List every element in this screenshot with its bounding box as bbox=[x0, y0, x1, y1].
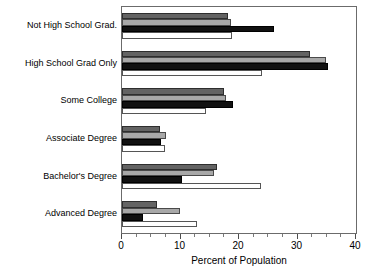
x-tick-minor bbox=[311, 234, 312, 237]
bar-row bbox=[122, 108, 356, 114]
y-axis-label: Bachelor's Degree bbox=[1, 171, 117, 181]
x-tick-minor bbox=[282, 234, 283, 237]
bar-group bbox=[122, 158, 356, 196]
bar[interactable] bbox=[122, 145, 165, 151]
bar[interactable] bbox=[122, 108, 206, 114]
x-tick-minor bbox=[136, 234, 137, 237]
x-tick-minor bbox=[253, 234, 254, 237]
bar-chart: Not High School Grad.High School Grad On… bbox=[0, 0, 371, 271]
bar-group bbox=[122, 45, 356, 83]
x-tick-minor bbox=[340, 234, 341, 237]
x-tick-major bbox=[238, 234, 239, 239]
x-tick-minor bbox=[223, 234, 224, 237]
x-tick-minor bbox=[209, 234, 210, 237]
bar[interactable] bbox=[122, 221, 197, 227]
bar-group bbox=[122, 120, 356, 158]
x-tick-label: 20 bbox=[232, 240, 243, 252]
x-tick-minor bbox=[150, 234, 151, 237]
bar-group bbox=[122, 7, 356, 45]
x-tick-label: 10 bbox=[174, 240, 185, 252]
y-axis-label: High School Grad Only bbox=[1, 58, 117, 68]
bar[interactable] bbox=[122, 32, 232, 38]
bar-group bbox=[122, 82, 356, 120]
x-tick-minor bbox=[165, 234, 166, 237]
bar[interactable] bbox=[122, 70, 262, 76]
bar-row bbox=[122, 221, 356, 227]
y-axis-label: Some College bbox=[1, 95, 117, 105]
y-axis-category-labels: Not High School Grad.High School Grad On… bbox=[0, 6, 117, 234]
x-axis-title: Percent of Population bbox=[121, 255, 357, 267]
bar-row bbox=[122, 32, 356, 38]
y-axis-label: Associate Degree bbox=[1, 133, 117, 143]
x-tick-minor bbox=[194, 234, 195, 237]
x-tick-major bbox=[180, 234, 181, 239]
y-axis-label: Not High School Grad. bbox=[1, 20, 117, 30]
bar-group bbox=[122, 195, 356, 233]
plot-area bbox=[121, 6, 357, 234]
bar[interactable] bbox=[122, 183, 261, 189]
x-tick-minor bbox=[267, 234, 268, 237]
x-axis-tick-labels: 010203040 bbox=[121, 240, 357, 254]
bar-row bbox=[122, 145, 356, 151]
x-tick-label: 40 bbox=[349, 240, 360, 252]
x-tick-major bbox=[355, 234, 356, 239]
x-tick-label: 0 bbox=[118, 240, 124, 252]
x-tick-label: 30 bbox=[291, 240, 302, 252]
bar-row bbox=[122, 183, 356, 189]
x-tick-major bbox=[121, 234, 122, 239]
bar-row bbox=[122, 70, 356, 76]
y-axis-label: Advanced Degree bbox=[1, 208, 117, 218]
x-tick-major bbox=[297, 234, 298, 239]
x-tick-minor bbox=[326, 234, 327, 237]
